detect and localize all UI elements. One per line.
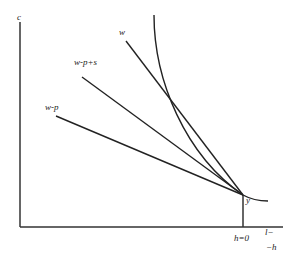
budget-line-w-p: [56, 116, 243, 195]
line-label-w-p: w-p: [45, 102, 59, 112]
line-label-w-p-s: w-p+s: [74, 57, 98, 67]
x-axis-label-top: l−: [265, 227, 274, 237]
budget-line-w: [126, 41, 243, 195]
diagram: c w w-p+s w-p y h=0 l− −h: [0, 0, 298, 262]
x-tick-label-h0: h=0: [234, 233, 250, 243]
x-axis-label-bottom: −h: [266, 242, 277, 252]
budget-line-w-p-s: [82, 77, 243, 195]
line-label-w: w: [119, 27, 125, 37]
indifference-curve: [154, 15, 268, 201]
point-label-y: y: [245, 195, 250, 205]
y-axis-label: c: [17, 12, 21, 22]
